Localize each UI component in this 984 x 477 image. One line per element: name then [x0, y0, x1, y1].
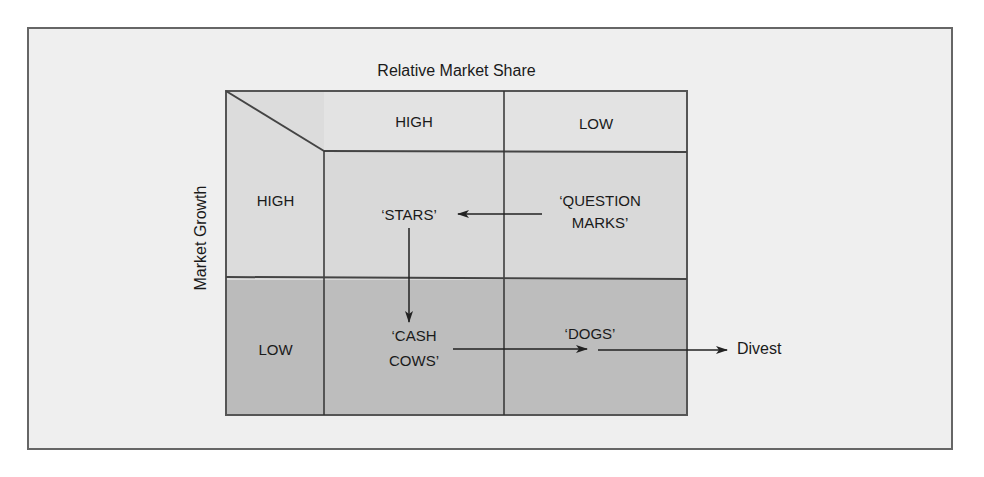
- quadrant-stars: ‘STARS’: [364, 204, 454, 226]
- column-header-high: HIGH: [324, 111, 504, 133]
- column-header-low: LOW: [504, 113, 688, 135]
- quadrant-question-marks-line2: MARKS’: [540, 212, 660, 234]
- quadrant-question-marks-line1: ‘QUESTION: [540, 190, 660, 212]
- quadrant-dogs: ‘DOGS’: [545, 323, 635, 345]
- matrix-grid: [225, 90, 688, 416]
- x-axis-title: Relative Market Share: [225, 62, 688, 80]
- row-header-high: HIGH: [227, 190, 324, 212]
- row-header-low: LOW: [227, 339, 324, 361]
- row-header-cell-high: [227, 92, 324, 280]
- quadrant-cash-cows-line2: COWS’: [374, 350, 454, 372]
- quadrant-cash-cows-line1: ‘CASH: [374, 325, 454, 347]
- divest-label: Divest: [737, 338, 781, 360]
- y-axis-title: Market Growth: [192, 186, 210, 291]
